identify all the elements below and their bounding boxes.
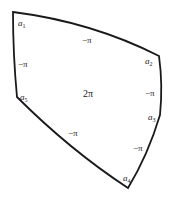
vertex-label-a5: a5 [20, 92, 28, 103]
edge-label-a2-a3: −π [145, 88, 155, 98]
center-label: 2π [83, 88, 93, 99]
edge-label-a4-a5: −π [68, 128, 78, 138]
edge-label-a1-a2: −π [82, 35, 92, 45]
edge-label-a5-a1: −π [18, 59, 28, 69]
vertex-label-a1: a1 [18, 18, 26, 29]
edge-label-a3-a4: −π [133, 143, 143, 153]
vertex-label-a3: a3 [148, 112, 156, 123]
vertex-label-a2: a2 [145, 56, 153, 67]
vertex-label-a4: a4 [123, 173, 131, 184]
pentagon-diagram: a1 a2 a3 a4 a5 −π −π −π −π −π 2π [0, 0, 176, 201]
